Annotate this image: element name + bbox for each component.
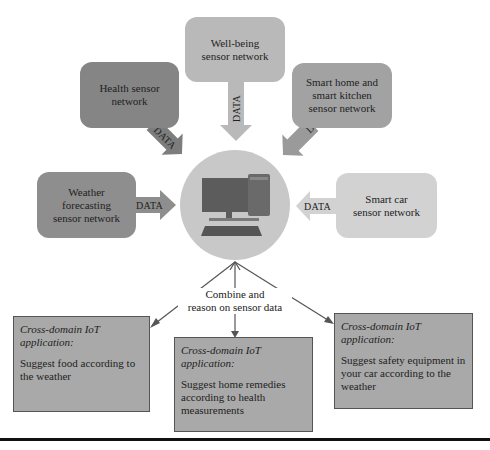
application-box-food: Cross-domain IoT application: Suggest fo… bbox=[13, 316, 150, 412]
node-weather-sensor-network: Weather forecasting sensor network bbox=[37, 172, 136, 238]
application-box-car-safety: Cross-domain IoT application: Suggest sa… bbox=[334, 313, 473, 409]
node-label-line: smart kitchen bbox=[306, 89, 378, 102]
reasoning-label-line: reason on sensor data bbox=[178, 301, 292, 314]
application-title: Cross-domain IoT application: bbox=[181, 344, 306, 370]
node-label-line: Smart car bbox=[353, 193, 420, 206]
node-label-line: sensor network bbox=[53, 212, 120, 225]
application-description: Suggest food according to the weather bbox=[20, 357, 135, 382]
application-box-home-remedies: Cross-domain IoT application: Suggest ho… bbox=[174, 337, 313, 432]
node-label-line: sensor network bbox=[353, 206, 420, 219]
application-title: Cross-domain IoT application: bbox=[20, 323, 143, 349]
arrowheads bbox=[150, 316, 334, 338]
arrow-smart-car: DATA bbox=[296, 191, 336, 221]
svg-text:DATA: DATA bbox=[304, 201, 332, 212]
node-label-line: sensor network bbox=[306, 102, 378, 115]
reasoning-label-line: Combine and bbox=[178, 288, 292, 301]
application-description: Suggest home remedies according to healt… bbox=[181, 378, 285, 416]
arrow-weather: DATA bbox=[135, 190, 176, 220]
node-health-sensor-network: Health sensor network bbox=[80, 62, 179, 128]
reasoning-label: Combine and reason on sensor data bbox=[178, 288, 292, 314]
iot-diagram: DATA DATA DATA DATA DATA bbox=[0, 0, 490, 450]
application-description: Suggest safety equipment in your car acc… bbox=[341, 354, 465, 392]
node-label-line: Health sensor bbox=[99, 82, 159, 95]
application-title: Cross-domain IoT application: bbox=[341, 320, 466, 346]
node-well-being-sensor-network: Well-being sensor network bbox=[185, 17, 285, 82]
arrow-label: DATA bbox=[231, 94, 242, 122]
node-smart-home-sensor-network: Smart home and smart kitchen sensor netw… bbox=[292, 63, 392, 128]
node-label-line: Weather bbox=[53, 186, 120, 199]
node-label-line: Smart home and bbox=[306, 76, 378, 89]
node-smart-car-sensor-network: Smart car sensor network bbox=[336, 173, 437, 238]
node-label-line: network bbox=[99, 95, 159, 108]
node-label-line: forecasting bbox=[53, 199, 120, 212]
svg-text:DATA: DATA bbox=[136, 200, 164, 211]
arrow-well-being: DATA bbox=[220, 82, 252, 141]
node-label-line: sensor network bbox=[202, 50, 269, 63]
node-label-line: Well-being bbox=[202, 37, 269, 50]
bottom-divider bbox=[0, 438, 490, 441]
